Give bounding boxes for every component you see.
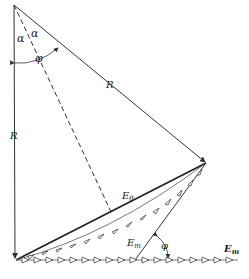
e-m-right-label: Em [223,243,239,256]
phi-top-label: φ [35,52,43,65]
alpha-right-label: α [31,27,39,40]
bisector-dashed-line [14,5,112,214]
e-theta-chord [16,163,206,260]
phasor-chain-straight [16,257,238,263]
phi-bottom-label: φ [161,240,168,251]
phasor-diagram: α α φ R R Eθ Em φ Em [0,0,249,279]
r-left-label: R [9,130,18,141]
r-diagonal-label: R [105,79,114,90]
e-theta-label: Eθ [121,190,134,203]
e-m-mid-label: Em [126,237,141,250]
alpha-left-label: α [17,32,25,45]
secondary-line [135,163,206,260]
